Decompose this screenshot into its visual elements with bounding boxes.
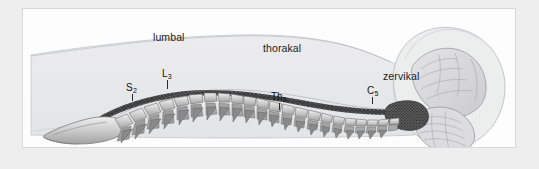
- vertebra-label-th5-base: Th: [271, 91, 283, 102]
- region-label-lumbal: lumbal: [153, 31, 185, 43]
- vertebra-label-l3-base: L: [162, 68, 168, 79]
- figure-panel: lumbal thorakal zervikal S2 L3 Th5 C5: [22, 8, 516, 148]
- vertebra-label-c5-base: C: [367, 85, 374, 96]
- leader-tick-l3: [167, 80, 168, 89]
- leader-tick-s2: [132, 94, 133, 101]
- region-label-zervikal: zervikal: [383, 70, 419, 82]
- vertebra-label-th5: Th5: [271, 91, 287, 102]
- vertebra-label-s2: S2: [126, 82, 137, 93]
- region-label-thorakal: thorakal: [263, 42, 301, 54]
- leader-tick-c5: [372, 97, 373, 104]
- vertebral-column-illustration: [23, 9, 516, 148]
- vertebra-label-c5: C5: [367, 85, 378, 96]
- vertebra-label-s2-base: S: [126, 82, 133, 93]
- vertebra-label-l3: L3: [162, 68, 171, 79]
- vertebra-label-l3-sub: 3: [168, 73, 172, 80]
- leader-tick-th5: [279, 103, 280, 110]
- figure-root: lumbal thorakal zervikal S2 L3 Th5 C5: [0, 0, 539, 169]
- vertebra-label-c5-sub: 5: [375, 90, 379, 97]
- vertebra-label-s2-sub: 2: [133, 87, 137, 94]
- vertebra-body: [388, 118, 399, 131]
- vertebra-label-th5-sub: 5: [283, 96, 287, 103]
